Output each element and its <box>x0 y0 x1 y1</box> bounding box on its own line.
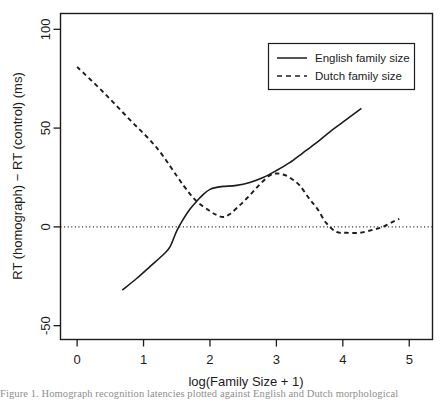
x-tick-label: 3 <box>273 352 280 367</box>
y-tick-label: 0 <box>38 223 53 230</box>
x-axis-title: log(Family Size + 1) <box>188 374 303 389</box>
legend-border <box>269 44 415 90</box>
y-tick-label: 50 <box>38 121 53 135</box>
series-line-dutch <box>77 67 399 233</box>
chart-legend: English family size Dutch family size <box>269 44 415 90</box>
x-tick-label: 0 <box>73 352 80 367</box>
y-axis: -50050100 <box>38 18 61 335</box>
y-tick-label: 100 <box>38 18 53 40</box>
legend-label-dutch: Dutch family size <box>315 70 402 82</box>
legend-label-english: English family size <box>315 52 410 64</box>
series-line-english <box>122 108 361 290</box>
y-axis-title: RT (homograph) − RT (control) (ms) <box>10 72 25 279</box>
x-tick-label: 1 <box>140 352 147 367</box>
chart-canvas: 012345 -50050100 log(Family Size + 1) RT… <box>0 0 441 410</box>
x-axis: 012345 <box>73 340 412 367</box>
x-tick-label: 2 <box>206 352 213 367</box>
figure-panel: 012345 -50050100 log(Family Size + 1) RT… <box>0 0 441 410</box>
y-tick-label: -50 <box>38 316 53 335</box>
x-tick-label: 4 <box>339 352 346 367</box>
x-tick-label: 5 <box>406 352 413 367</box>
figure-caption: Figure 1. Homograph recognition latencie… <box>0 388 441 410</box>
series-layer <box>77 67 399 290</box>
